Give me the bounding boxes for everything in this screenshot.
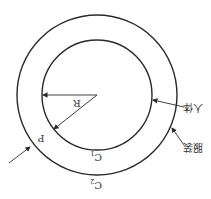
- diagram-canvas: R P C1 C2 人体 服装: [0, 0, 211, 199]
- clothing-leader-arrow: [172, 128, 184, 145]
- body-label: 人体: [183, 102, 203, 113]
- inner-circle-label: C1: [90, 149, 102, 163]
- point-label: P: [37, 133, 44, 144]
- body-leader-arrow: [153, 100, 184, 107]
- concentric-circles-diagram: R P C1 C2 人体 服装: [0, 0, 211, 199]
- clothing-label: 服装: [183, 142, 203, 154]
- outer-circle-label: C2: [90, 177, 102, 191]
- point-p-arrow: [9, 147, 30, 163]
- radius-label: R: [73, 98, 81, 109]
